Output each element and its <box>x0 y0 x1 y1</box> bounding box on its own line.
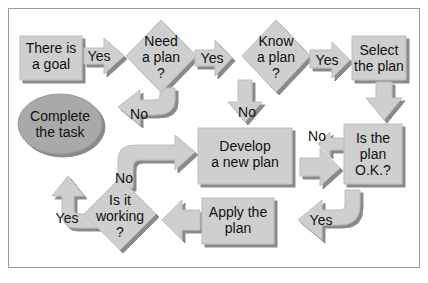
node-complete-line1: Complete <box>18 108 102 124</box>
node-isok: Is the plan O.K.? <box>344 130 402 178</box>
node-know-line3: ? <box>242 65 310 81</box>
node-need-line2: a plan <box>126 49 196 65</box>
node-working-line1: Is it <box>84 192 156 208</box>
node-develop-line2: a new plan <box>198 154 292 170</box>
node-need-line3: ? <box>126 65 196 81</box>
node-isok-line1: Is the <box>344 130 402 146</box>
node-apply-line2: plan <box>202 220 274 236</box>
arrow-develop-isok <box>300 148 340 186</box>
node-apply: Apply the plan <box>202 204 274 236</box>
node-select-line2: the plan <box>352 58 406 74</box>
node-goal: There is a goal <box>20 40 82 72</box>
node-know-line2: a plan <box>242 49 310 65</box>
node-apply-line1: Apply the <box>202 204 274 220</box>
edge-label-goal-need: Yes <box>84 48 114 64</box>
node-know-line1: Know <box>242 33 310 49</box>
edge-label-need-know: Yes <box>196 50 228 66</box>
edge-label-working-develop: No <box>112 170 136 186</box>
node-need: Need a plan ? <box>126 33 196 81</box>
node-working-line2: working <box>84 208 156 224</box>
node-complete: Complete the task <box>18 108 102 140</box>
node-know: Know a plan ? <box>242 33 310 81</box>
edge-label-isok-develop: No <box>304 128 330 144</box>
arrow-select-isok <box>366 82 402 120</box>
node-develop-line1: Develop <box>198 138 292 154</box>
arrow-apply-working <box>162 200 200 240</box>
edge-label-know-select: Yes <box>310 52 344 68</box>
node-select-line1: Select <box>352 42 406 58</box>
edge-label-isok-apply: Yes <box>304 212 338 228</box>
node-isok-line2: plan <box>344 146 402 162</box>
node-working-line3: ? <box>84 224 156 240</box>
node-select: Select the plan <box>352 42 406 74</box>
node-goal-line1: There is <box>20 40 82 56</box>
edge-label-need-complete: No <box>124 106 154 122</box>
node-complete-line2: the task <box>18 124 102 140</box>
node-develop: Develop a new plan <box>198 138 292 170</box>
edge-label-working-complete: Yes <box>52 210 82 226</box>
node-need-line1: Need <box>126 33 196 49</box>
node-isok-line3: O.K.? <box>344 162 402 178</box>
node-goal-line2: a goal <box>20 56 82 72</box>
node-working: Is it working ? <box>84 192 156 240</box>
edge-label-know-develop: No <box>232 104 262 120</box>
